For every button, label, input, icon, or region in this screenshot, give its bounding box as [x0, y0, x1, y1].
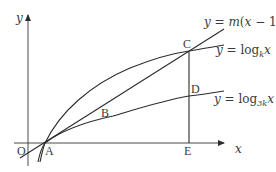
curve-log-3k [40, 91, 224, 162]
log-curves-diagram: y x O A B C D E y = m(x − 1) y = logkx y… [0, 0, 276, 172]
curve-log-k [38, 45, 224, 162]
log-k-equation-label: y = logkx [215, 43, 271, 59]
point-e-label: E [184, 144, 191, 158]
origin-label: O [17, 144, 26, 158]
log-3k-equation-label: y = log3kx [213, 92, 274, 108]
y-axis-label: y [15, 11, 23, 25]
point-c-label: C [183, 37, 191, 51]
point-b-label: B [101, 106, 109, 120]
point-d-label: D [191, 82, 200, 96]
point-a-label: A [45, 144, 54, 158]
line-equation-label: y = m(x − 1) [203, 15, 276, 29]
x-axis-label: x [235, 142, 242, 156]
